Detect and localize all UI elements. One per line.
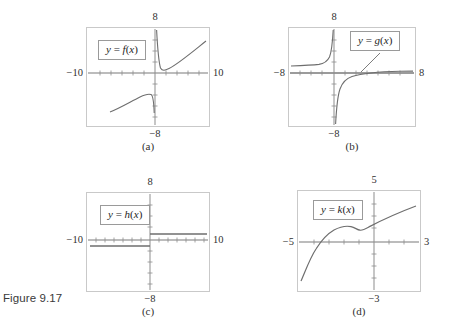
- axis-label-a-top: 8: [152, 12, 157, 23]
- axis-label-c-right: 10: [213, 235, 224, 246]
- subcaption-b: (b): [346, 140, 359, 152]
- axis-label-b-bottom: −8: [328, 129, 339, 140]
- axis-label-b-top: 8: [331, 12, 336, 23]
- function-label-c: y = h(x): [100, 205, 150, 225]
- subcaption-a: (a): [142, 140, 154, 152]
- axis-label-c-left: −10: [67, 235, 83, 246]
- plot-panel-c: y = h(x): [86, 192, 210, 292]
- leader-line-b: [361, 53, 380, 72]
- axis-label-d-bottom: −3: [368, 294, 379, 305]
- function-label-b: y = g(x): [350, 31, 400, 51]
- axis-label-b-right: 8: [419, 68, 424, 79]
- subcaption-c: (c): [142, 305, 154, 317]
- curve-f-right: [157, 30, 206, 70]
- axis-label-d-left: −5: [283, 237, 294, 248]
- axis-label-c-bottom: −8: [144, 294, 155, 305]
- plot-panel-b: y = g(x): [288, 27, 416, 127]
- function-label-a: y = f(x): [98, 40, 146, 60]
- axis-label-d-right: 3: [424, 237, 429, 248]
- figure-caption: Figure 9.17: [3, 292, 62, 304]
- axis-label-a-right: 10: [213, 68, 224, 79]
- plot-panel-d: y = k(x): [297, 190, 421, 292]
- axis-label-c-top: 8: [147, 177, 152, 188]
- subcaption-d: (d): [353, 305, 366, 317]
- curve-g-right: [336, 71, 413, 124]
- axis-label-b-left: −8: [274, 68, 285, 79]
- axis-label-a-bottom: −8: [149, 129, 160, 140]
- plot-panel-a: y = f(x): [86, 27, 210, 127]
- figure-9-17: y = f(x) 8 −8 −10 10 (a): [0, 0, 458, 331]
- curve-f-left: [110, 94, 154, 113]
- axis-label-d-top: 5: [371, 175, 376, 186]
- curve-g-left: [291, 30, 333, 66]
- axis-label-a-left: −10: [67, 68, 83, 79]
- function-label-d: y = k(x): [313, 200, 363, 220]
